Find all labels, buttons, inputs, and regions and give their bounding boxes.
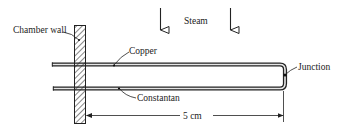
- copper-label: Copper: [129, 46, 158, 56]
- chamber-wall-leader-dot: [78, 39, 80, 41]
- junction-leader: [286, 67, 297, 74]
- copper-leader-dot: [113, 64, 115, 66]
- junction-label: Junction: [298, 62, 330, 72]
- copper-wire: [52, 62, 285, 90]
- constantan-leader-dot: [118, 87, 120, 89]
- constantan-label: Constantan: [137, 93, 180, 103]
- dimension-label: 5 cm: [183, 111, 202, 121]
- chamber-wall-label: Chamber wall: [13, 25, 67, 35]
- thermocouple-diagram: Chamber wall Steam Copper Constantan Jun…: [0, 0, 346, 131]
- chamber-wall: [75, 26, 86, 124]
- steam-label: Steam: [184, 16, 208, 26]
